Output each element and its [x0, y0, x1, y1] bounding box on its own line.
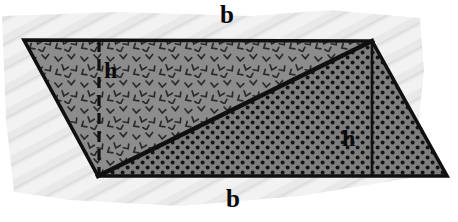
label-height-left: h	[104, 58, 117, 82]
label-height-right: h	[342, 126, 355, 150]
label-base-top: b	[220, 2, 234, 27]
diagram-canvas: b b h h	[0, 0, 458, 222]
label-base-bottom: b	[226, 186, 240, 211]
